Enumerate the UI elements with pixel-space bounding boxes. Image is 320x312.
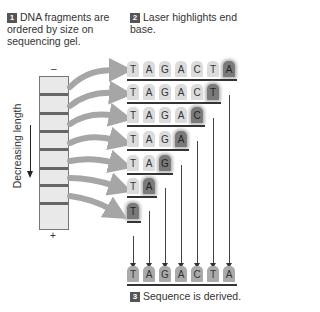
- base: T: [207, 61, 219, 77]
- base: T: [127, 178, 139, 194]
- strand-line: [127, 196, 157, 198]
- derived-base: C: [191, 266, 203, 282]
- base: T: [127, 84, 139, 100]
- base: A: [143, 131, 155, 147]
- strand-line: [127, 173, 173, 175]
- arrow-icon: [70, 70, 115, 210]
- base: T: [127, 61, 139, 77]
- base: G: [159, 107, 171, 123]
- strand-line: [127, 79, 237, 81]
- projection-line: [181, 165, 182, 264]
- base: A: [175, 107, 187, 123]
- projection-line: [149, 211, 150, 264]
- derived-base: T: [207, 266, 219, 282]
- strand-line: [127, 149, 189, 151]
- base: C: [191, 61, 203, 77]
- strand-line: [127, 125, 205, 127]
- base: T: [127, 155, 139, 171]
- base: A: [143, 61, 155, 77]
- highlighted-end-base: C: [191, 107, 203, 123]
- projection-line: [165, 188, 166, 264]
- derived-base: T: [127, 266, 139, 282]
- derived-base: G: [159, 266, 171, 282]
- base: C: [191, 84, 203, 100]
- strand-line: [127, 102, 221, 104]
- highlighted-end-base: A: [143, 178, 155, 194]
- strand-line: [127, 221, 141, 223]
- strand-line: [127, 284, 237, 286]
- base: G: [159, 131, 171, 147]
- base: G: [159, 84, 171, 100]
- derived-base: A: [143, 266, 155, 282]
- highlighted-end-base: T: [207, 84, 219, 100]
- projection-line: [133, 236, 134, 264]
- derived-base: A: [175, 266, 187, 282]
- base: A: [175, 84, 187, 100]
- projection-line: [229, 95, 230, 264]
- base: A: [143, 155, 155, 171]
- base: G: [159, 61, 171, 77]
- highlighted-end-base: A: [223, 61, 235, 77]
- projection-line: [213, 118, 214, 264]
- base: A: [143, 107, 155, 123]
- base: A: [143, 84, 155, 100]
- highlighted-end-base: A: [175, 131, 187, 147]
- base: T: [127, 107, 139, 123]
- derived-base: A: [223, 266, 235, 282]
- highlighted-end-base: T: [127, 203, 139, 219]
- base: A: [175, 61, 187, 77]
- highlighted-end-base: G: [159, 155, 171, 171]
- base: T: [127, 131, 139, 147]
- projection-line: [197, 141, 198, 264]
